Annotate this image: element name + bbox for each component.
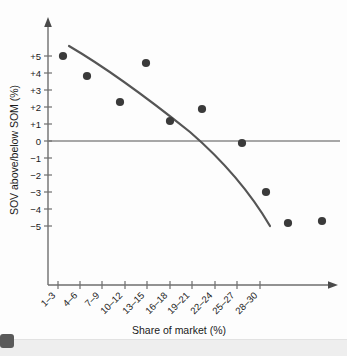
data-point[interactable] bbox=[116, 98, 124, 106]
chart-background bbox=[0, 0, 347, 340]
scatter-chart-svg: +5 +4 +3 +2 +1 0 −1 −2 −3 −4 −5 SOV abov… bbox=[0, 0, 347, 356]
y-tick-label: −3 bbox=[30, 187, 41, 198]
y-tick-label: +5 bbox=[30, 51, 41, 62]
data-point[interactable] bbox=[166, 117, 174, 125]
y-tick-label: −1 bbox=[30, 153, 41, 164]
y-tick-label: +3 bbox=[30, 85, 41, 96]
chart-container: +5 +4 +3 +2 +1 0 −1 −2 −3 −4 −5 SOV abov… bbox=[0, 0, 347, 356]
data-point[interactable] bbox=[83, 72, 91, 80]
data-point[interactable] bbox=[318, 217, 326, 225]
y-tick-label: 0 bbox=[36, 136, 41, 147]
data-point[interactable] bbox=[59, 52, 67, 60]
data-point[interactable] bbox=[262, 188, 270, 196]
y-tick-label: +4 bbox=[30, 68, 41, 79]
x-axis-title: Share of market (%) bbox=[132, 324, 226, 336]
y-tick-label: −4 bbox=[30, 204, 41, 215]
y-tick-label: −5 bbox=[30, 221, 41, 232]
data-point[interactable] bbox=[198, 105, 206, 113]
data-point[interactable] bbox=[284, 219, 292, 227]
data-point[interactable] bbox=[238, 139, 246, 147]
footer-band bbox=[0, 339, 347, 356]
data-point[interactable] bbox=[142, 59, 150, 67]
y-axis-title: SOV above/below SOM (%) bbox=[8, 85, 20, 215]
y-tick-label: +1 bbox=[30, 119, 41, 130]
y-tick-label: −2 bbox=[30, 170, 41, 181]
corner-marker bbox=[0, 334, 14, 348]
y-tick-label: +2 bbox=[30, 102, 41, 113]
